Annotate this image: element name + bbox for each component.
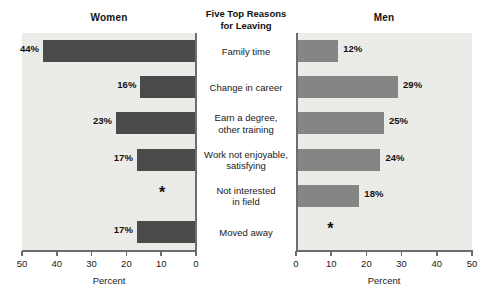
bar-value-label-men: 29% [403,79,422,91]
category-label-line-2: in field [198,196,294,208]
plot-panel-men: 12%29%25%24%18%* [296,33,472,250]
axis-tick-label-women: 20 [111,258,141,269]
category-label-line-2: satisfying [198,160,294,172]
chart-root: Women Men Five Top Reasons for Leaving 4… [0,0,488,303]
axis-tick-men [401,251,403,256]
axis-tick-label-women: 30 [77,258,107,269]
category-label-line-1: Family time [198,46,294,58]
axis-spine-men [296,33,298,250]
bar-women [116,112,196,134]
category-label: Earn a degree,other training [198,112,294,135]
bar-row-women: 17% [22,214,196,250]
category-label: Moved away [198,227,294,239]
axis-tick-label-men: 50 [457,258,487,269]
axis-tick-label-men: 10 [316,258,346,269]
axis-tick-label-women: 50 [7,258,37,269]
axis-spine-women [195,33,197,250]
x-axis-men [296,250,473,252]
bar-row-women: 17% [22,142,196,178]
category-label-line-1: Change in career [198,82,294,94]
category-label-column: Family timeChange in careerEarn a degree… [198,33,294,250]
bar-value-label-women: 17% [114,152,133,164]
axis-tick-men [366,251,368,256]
category-label: Change in career [198,82,294,94]
bar-value-label-women: 17% [114,224,133,236]
bar-value-label-men: 24% [385,152,404,164]
bar-row-men: 25% [296,105,472,141]
axis-tick-label-women: 0 [181,258,211,269]
bar-men [296,185,359,207]
bar-row-men: 29% [296,69,472,105]
bar-value-label-women: 16% [117,79,136,91]
axis-tick-label-men: 20 [351,258,381,269]
axis-tick-label-women: 40 [42,258,72,269]
suppressed-value-asterisk-women: * [159,183,165,203]
bar-row-women: 44% [22,33,196,69]
axis-tick-label-women: 10 [146,258,176,269]
axis-tick-men [471,251,473,256]
bar-row-women: 16% [22,69,196,105]
axis-tick-men [436,251,438,256]
bar-value-label-men: 18% [364,188,383,200]
axis-tick-men [295,251,297,256]
x-axis-women [22,250,197,252]
axis-tick-women [21,251,23,256]
axis-tick-women [56,251,58,256]
axis-tick-men [330,251,332,256]
bar-men [296,40,338,62]
chart-title: Five Top Reasons for Leaving [198,8,294,32]
panel-header-women: Women [22,12,196,23]
bar-women [137,221,196,243]
bar-men [296,112,384,134]
axis-tick-label-men: 40 [422,258,452,269]
bar-value-label-women: 44% [20,43,39,55]
x-axis-title-men: Percent [296,275,472,286]
category-label-line-1: Work not enjoyable, [198,149,294,161]
bar-women [140,76,196,98]
bar-row-women: 23% [22,105,196,141]
category-label-line-1: Earn a degree, [198,112,294,124]
bar-row-men: 12% [296,33,472,69]
axis-tick-women [160,251,162,256]
category-label: Not interestedin field [198,185,294,208]
x-axis-title-women: Percent [22,275,196,286]
panel-header-men: Men [296,12,472,23]
category-label-line-1: Moved away [198,227,294,239]
bar-value-label-men: 25% [389,115,408,127]
plot-panel-women: 44%16%23%17%*17% [22,33,196,250]
axis-tick-women [91,251,93,256]
bar-women [137,149,196,171]
category-label-line-1: Not interested [198,185,294,197]
bar-row-women: * [22,178,196,214]
category-label: Work not enjoyable,satisfying [198,149,294,172]
bar-men [296,149,380,171]
chart-title-line-2: for Leaving [198,20,294,32]
suppressed-value-asterisk-men: * [327,219,333,239]
category-label: Family time [198,46,294,58]
axis-tick-label-men: 0 [281,258,311,269]
axis-tick-women [195,251,197,256]
bar-row-men: 18% [296,178,472,214]
bar-men [296,76,398,98]
bar-value-label-men: 12% [343,43,362,55]
bar-row-men: * [296,214,472,250]
bar-row-men: 24% [296,142,472,178]
category-label-line-2: other training [198,124,294,136]
chart-title-line-1: Five Top Reasons [198,8,294,20]
bar-value-label-women: 23% [93,115,112,127]
axis-tick-label-men: 30 [387,258,417,269]
axis-tick-women [126,251,128,256]
bar-women [43,40,196,62]
